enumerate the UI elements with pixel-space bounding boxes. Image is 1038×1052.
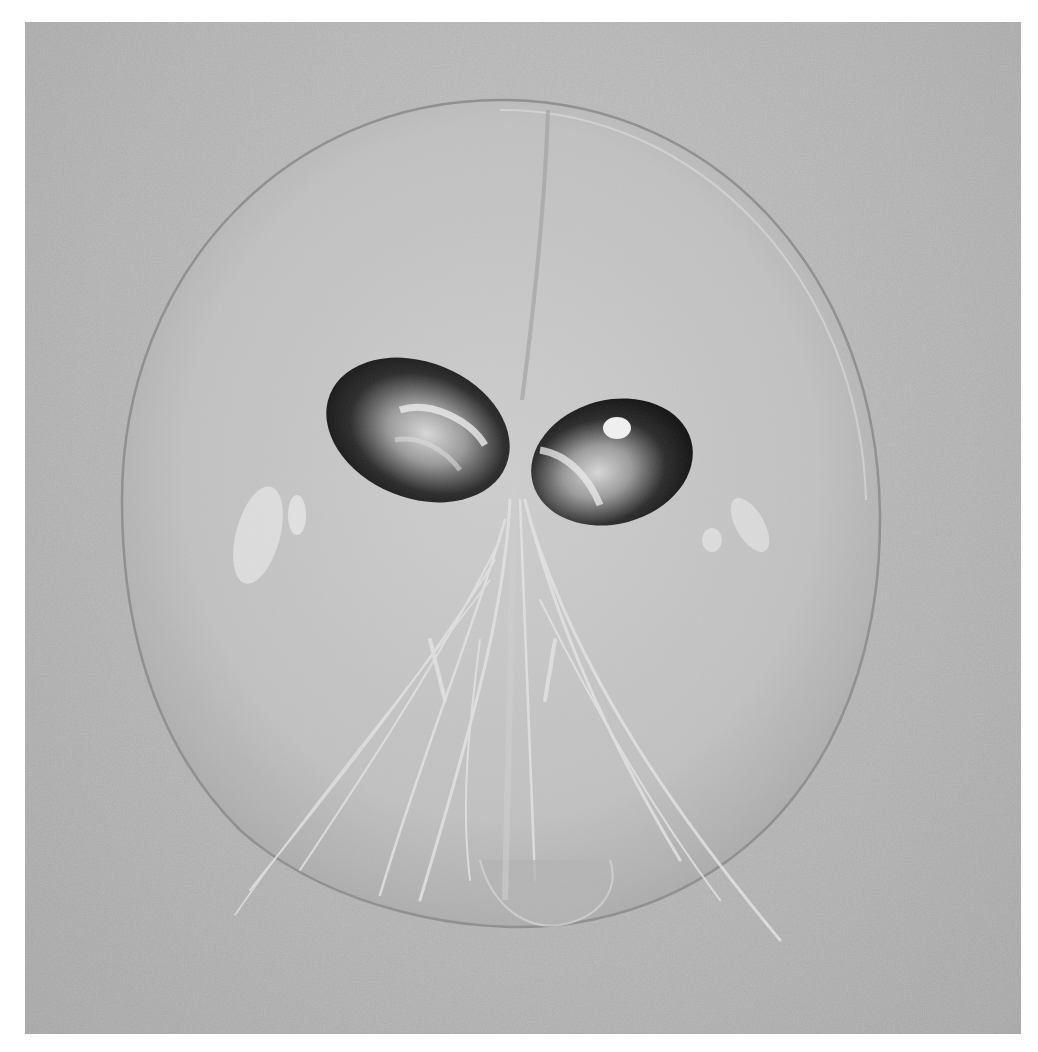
photo (25, 22, 1021, 1034)
specimen-illustration (25, 22, 1021, 1034)
film-grain (25, 22, 1021, 1034)
